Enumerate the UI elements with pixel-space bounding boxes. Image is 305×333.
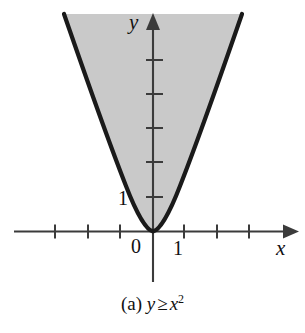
parabola-plot [0,0,305,290]
caption-variable: y [147,293,155,314]
y-axis-label: y [129,12,138,33]
caption-base: x [170,293,178,314]
caption-exponent: 2 [178,292,184,306]
figure-container: y x 1 1 0 (a) y≥x2 [0,0,305,333]
caption-index: (a) [121,293,142,314]
x-axis-label: x [276,238,285,259]
x-axis-arrowhead [283,225,299,239]
caption-relation-symbol: ≥ [155,293,169,314]
x-tick-label-1: 1 [173,238,183,258]
figure-caption: (a) y≥x2 [0,292,305,315]
plot-area: y x 1 1 0 [0,0,305,290]
origin-label: 0 [131,236,141,256]
y-tick-label-1: 1 [118,188,128,208]
